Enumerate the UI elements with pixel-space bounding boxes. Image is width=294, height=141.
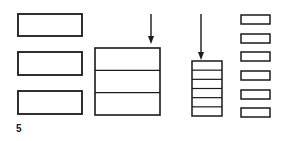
stacked-small-block (192, 61, 222, 116)
large-block-2 (18, 52, 82, 75)
small-block-5 (241, 90, 270, 99)
compression-arrow-1-icon (148, 14, 154, 44)
separate-large-blocks (18, 14, 82, 114)
large-stack-outline (95, 48, 160, 115)
arrow-head (198, 52, 204, 60)
small-block-6 (241, 108, 270, 117)
figure-label: 5 (16, 123, 22, 134)
stacked-large-block (95, 48, 160, 115)
separate-small-blocks (241, 15, 270, 117)
stacking-diagram (0, 0, 294, 141)
compression-arrow-2-icon (198, 14, 204, 60)
large-block-3 (18, 91, 82, 114)
arrow-head (148, 36, 154, 44)
large-block-1 (18, 14, 82, 36)
small-block-1 (241, 15, 270, 24)
small-block-2 (241, 34, 270, 43)
small-block-4 (241, 71, 270, 80)
small-block-3 (241, 52, 270, 61)
arrows (148, 14, 204, 60)
